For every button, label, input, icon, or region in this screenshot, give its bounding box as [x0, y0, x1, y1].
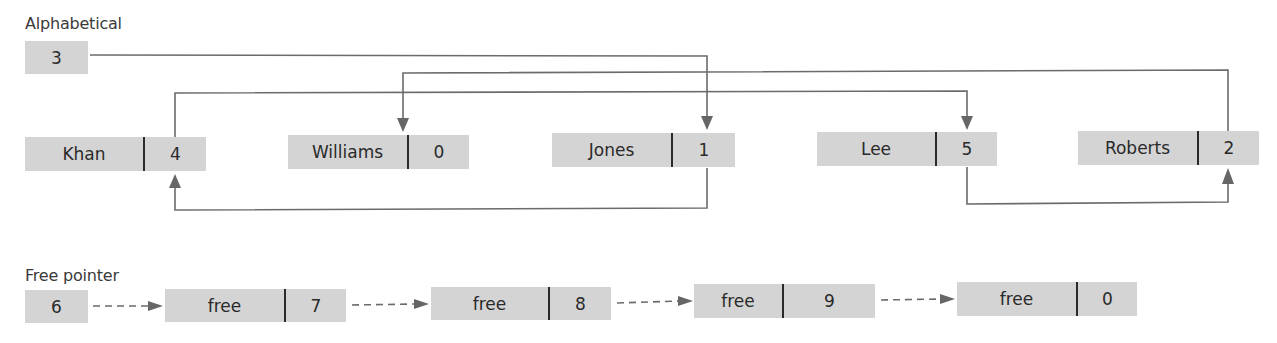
free-link-4 — [881, 299, 942, 300]
link-lee-to-roberts — [967, 167, 1228, 204]
free-link-3 — [617, 301, 680, 303]
node-data: free — [431, 294, 548, 314]
node-data: free — [165, 296, 284, 316]
free-link-2 — [352, 304, 416, 305]
free-node-4: free 0 — [957, 282, 1137, 316]
alphabetical-label: Alphabetical — [25, 14, 122, 33]
node-pointer: 4 — [145, 144, 206, 164]
node-lee: Lee 5 — [817, 132, 997, 166]
node-pointer: 2 — [1199, 138, 1259, 158]
node-jones: Jones 1 — [552, 133, 735, 167]
node-pointer: 1 — [673, 140, 735, 160]
node-data: Jones — [552, 140, 671, 160]
node-data: free — [957, 289, 1076, 309]
node-data: Roberts — [1078, 138, 1197, 158]
node-pointer: 0 — [1078, 289, 1137, 309]
node-khan: Khan 4 — [25, 137, 206, 171]
link-jones-to-khan — [175, 168, 707, 210]
node-data: Khan — [25, 144, 143, 164]
free-node-1: free 7 — [165, 289, 346, 322]
link-roberts-to-williams — [403, 70, 1228, 131]
free-node-3: free 9 — [694, 284, 875, 318]
node-pointer: 7 — [286, 296, 346, 316]
node-data: Williams — [288, 142, 407, 162]
node-pointer: 0 — [409, 142, 469, 162]
free-node-2: free 8 — [431, 287, 611, 320]
node-pointer: 8 — [550, 294, 611, 314]
node-data: free — [694, 291, 782, 311]
node-pointer: 5 — [937, 139, 997, 159]
node-pointer: 9 — [784, 291, 875, 311]
alphabetical-start-pointer: 3 — [25, 41, 88, 74]
node-roberts: Roberts 2 — [1078, 131, 1259, 165]
node-data: Lee — [817, 139, 935, 159]
free-start-pointer: 6 — [25, 290, 88, 323]
link-start-to-jones — [90, 55, 707, 118]
node-williams: Williams 0 — [288, 135, 469, 169]
free-pointer-label: Free pointer — [25, 266, 119, 285]
link-khan-to-lee — [175, 91, 967, 137]
